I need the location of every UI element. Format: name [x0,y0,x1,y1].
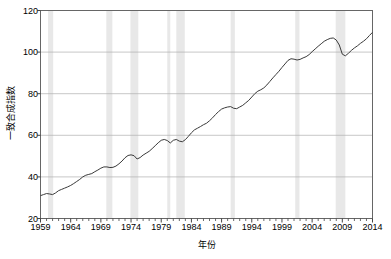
axis-ticks-group [37,11,373,223]
plot-frame [41,11,373,219]
chart-plot-area [0,0,391,259]
gridlines-group [41,52,373,177]
recession-band [130,11,138,219]
data-series-line [41,32,373,195]
recession-band [48,11,53,219]
recession-bands-group [48,11,345,219]
recession-band [295,11,299,219]
chart-figure: 一致合成指数 20406080100120 195919641969197419… [0,0,391,259]
recession-band [167,11,170,219]
recession-band [176,11,184,219]
recession-band [106,11,112,219]
axes-frame-group [41,11,373,219]
recession-band [231,11,235,219]
